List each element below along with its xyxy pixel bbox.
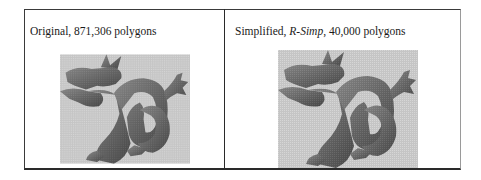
caption-prefix: Original, — [30, 25, 74, 37]
caption-original: Original, 871,306 polygons — [30, 25, 157, 37]
dragon-original-image — [60, 50, 190, 168]
panel-simplified: Simplified, R-Simp, 40,000 polygons — [225, 10, 460, 169]
caption-method: R-Simp — [289, 25, 323, 37]
dragon-simplified-image — [278, 50, 418, 168]
caption-simplified: Simplified, R-Simp, 40,000 polygons — [235, 25, 406, 37]
caption-polygon-count: , 40,000 polygons — [323, 25, 405, 37]
caption-polygon-count: 871,306 polygons — [74, 25, 156, 37]
panel-original: Original, 871,306 polygons — [25, 10, 224, 169]
caption-prefix: Simplified, — [235, 25, 289, 37]
